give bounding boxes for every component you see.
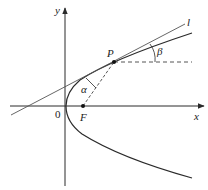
x-axis-label: x xyxy=(193,110,199,122)
point-p-label: P xyxy=(106,47,114,59)
y-axis-label: y xyxy=(54,4,60,16)
focus-point xyxy=(81,104,85,108)
focal-radius-dashed xyxy=(83,62,114,106)
angle-beta-label: β xyxy=(156,45,163,57)
tangent-line xyxy=(11,24,185,115)
focus-label: F xyxy=(79,111,87,123)
angle-alpha-label: α xyxy=(81,83,87,95)
tangent-line-label: l xyxy=(187,16,190,28)
origin-label: 0 xyxy=(55,108,61,120)
angle-alpha-arc xyxy=(86,78,96,88)
point-p xyxy=(112,60,116,64)
parabola-diagram: y x 0 P F l α β xyxy=(0,0,208,190)
